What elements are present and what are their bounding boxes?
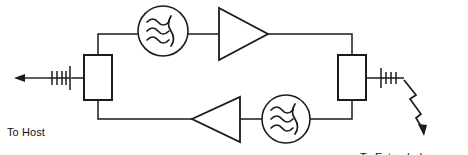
amplifier-bottom-symbol xyxy=(192,97,240,142)
host-connector-icon xyxy=(14,66,70,90)
duplexer-right-block xyxy=(338,55,366,100)
filter-top-symbol xyxy=(138,6,188,56)
label-to-host-base-station: To Host Base Station xyxy=(7,99,71,155)
wire-filter-bottom-to-duplexer-right xyxy=(310,100,352,119)
repeater-block-diagram: To Host Base Station To Extended Coverag… xyxy=(0,0,468,155)
wire-duplexer-left-to-amp-bottom xyxy=(98,100,192,119)
wire-amp-top-to-duplexer-right xyxy=(268,34,352,55)
filter-bottom-symbol xyxy=(262,95,310,143)
label-to-extended-coverage-area: To Extended Coverage Area xyxy=(360,124,435,155)
wire-duplexer-left-to-filter-top xyxy=(98,34,138,55)
duplexer-left-block xyxy=(84,55,112,100)
label-host-line1: To Host xyxy=(7,126,71,140)
label-coverage-line1: To Extended xyxy=(360,151,435,155)
amplifier-top-symbol xyxy=(219,8,268,60)
